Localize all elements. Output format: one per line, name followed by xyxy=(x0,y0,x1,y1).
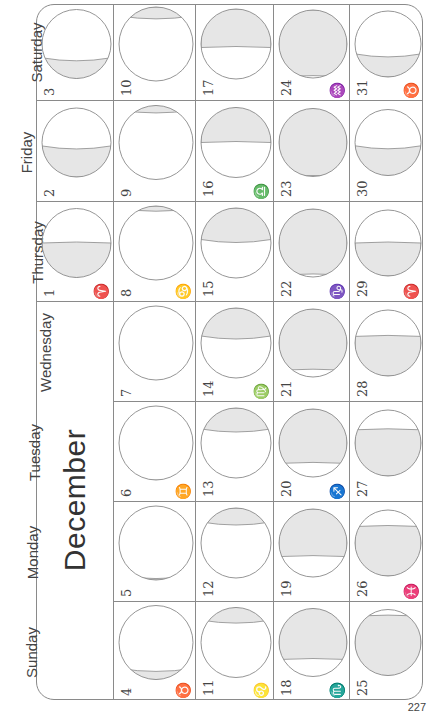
day-cell: 21 xyxy=(273,301,349,401)
day-cell: 23 xyxy=(273,100,349,201)
day-number: 11 xyxy=(201,679,216,696)
day-number: 2 xyxy=(42,189,57,197)
weekday-header-wednesday: Wednesday xyxy=(6,344,46,361)
day-cell: 25 xyxy=(349,601,423,700)
day-cell: 28 xyxy=(349,301,423,401)
zodiac-sign-icon: ♈ xyxy=(93,283,109,300)
zodiac-sign-icon: ♉ xyxy=(403,82,419,99)
day-cell: 31♉ xyxy=(349,4,423,100)
day-number: 27 xyxy=(355,480,370,497)
day-number: 1 xyxy=(42,289,57,297)
day-cell: 1♈ xyxy=(36,201,113,301)
day-cell: 24♒ xyxy=(273,4,349,100)
day-number: 22 xyxy=(279,280,294,297)
zodiac-sign-icon: ♋ xyxy=(175,283,191,300)
day-number: 18 xyxy=(279,679,294,696)
day-number: 16 xyxy=(201,180,216,197)
day-number: 15 xyxy=(201,280,216,297)
moon-phase-icon xyxy=(36,100,113,201)
day-cell: 9 xyxy=(113,100,195,201)
day-cell: 12 xyxy=(195,501,273,601)
day-cell: 11♌ xyxy=(195,601,273,700)
day-number: 4 xyxy=(119,688,134,696)
day-number: 21 xyxy=(279,380,294,397)
day-cell: 16♎ xyxy=(195,100,273,201)
zodiac-sign-icon: ♊ xyxy=(175,483,191,500)
day-cell: 13 xyxy=(195,401,273,501)
day-cell: 29♈ xyxy=(349,201,423,301)
day-number: 23 xyxy=(279,180,294,197)
day-cell: 2 xyxy=(36,100,113,201)
weekday-header-tuesday: Tuesday xyxy=(6,444,46,461)
page-number: 227 xyxy=(408,701,426,713)
day-cell: 20♐ xyxy=(273,401,349,501)
day-number: 19 xyxy=(279,580,294,597)
zodiac-sign-icon: ♉ xyxy=(175,682,191,699)
day-cell: 22♑ xyxy=(273,201,349,301)
day-number: 3 xyxy=(42,88,57,96)
day-number: 13 xyxy=(201,480,216,497)
zodiac-sign-icon: ♏ xyxy=(329,682,345,699)
day-number: 14 xyxy=(201,380,216,397)
day-number: 7 xyxy=(119,389,134,397)
day-cell: 3 xyxy=(36,4,113,100)
day-cell: 14♍ xyxy=(195,301,273,401)
day-cell: 8♋ xyxy=(113,201,195,301)
day-cell: 19 xyxy=(273,501,349,601)
day-number: 9 xyxy=(119,189,134,197)
day-number: 17 xyxy=(201,79,216,96)
day-number: 20 xyxy=(279,480,294,497)
day-number: 30 xyxy=(355,180,370,197)
day-number: 24 xyxy=(279,79,294,96)
weekday-header-monday: Monday xyxy=(6,544,46,561)
day-number: 6 xyxy=(119,489,134,497)
day-cell: 27 xyxy=(349,401,423,501)
day-number: 26 xyxy=(355,580,370,597)
day-cell: 30 xyxy=(349,100,423,201)
zodiac-sign-icon: ♎ xyxy=(253,183,269,200)
month-title: December xyxy=(40,470,110,530)
moon-phase-icon xyxy=(113,100,195,201)
day-number: 5 xyxy=(119,589,134,597)
day-number: 12 xyxy=(201,580,216,597)
zodiac-sign-icon: ♍ xyxy=(253,383,269,400)
zodiac-sign-icon: ♒ xyxy=(329,82,345,99)
moon-phase-icon xyxy=(113,301,195,401)
day-cell: 6♊ xyxy=(113,401,195,501)
day-number: 10 xyxy=(119,79,134,96)
day-cell: 18♏ xyxy=(273,601,349,700)
day-number: 31 xyxy=(355,79,370,96)
day-cell: 17 xyxy=(195,4,273,100)
day-number: 25 xyxy=(355,679,370,696)
day-number: 28 xyxy=(355,380,370,397)
day-number: 29 xyxy=(355,280,370,297)
zodiac-sign-icon: ♐ xyxy=(329,483,345,500)
moon-phase-icon xyxy=(113,501,195,601)
day-cell: 15 xyxy=(195,201,273,301)
zodiac-sign-icon: ♓ xyxy=(403,583,419,600)
day-cell: 4♉ xyxy=(113,601,195,700)
zodiac-sign-icon: ♌ xyxy=(253,682,269,699)
day-cell: 10 xyxy=(113,4,195,100)
moon-phase-icon xyxy=(36,4,113,100)
day-cell: 26♓ xyxy=(349,501,423,601)
zodiac-sign-icon: ♑ xyxy=(329,283,345,300)
weekday-header-sunday: Sunday xyxy=(6,644,46,661)
day-cell: 5 xyxy=(113,501,195,601)
zodiac-sign-icon: ♈ xyxy=(403,283,419,300)
day-number: 8 xyxy=(119,289,134,297)
day-cell: 7 xyxy=(113,301,195,401)
